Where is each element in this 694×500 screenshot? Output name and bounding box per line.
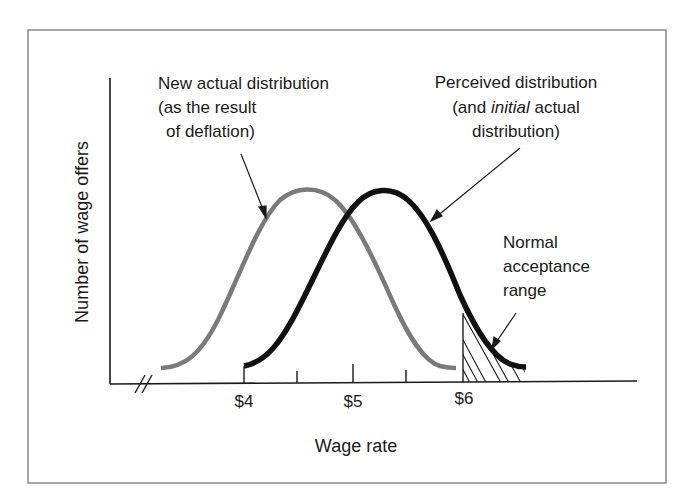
svg-text:New actual distribution: New actual distribution <box>158 74 329 93</box>
perceived-line-2: (and initial actual <box>452 98 580 117</box>
svg-text:(as the result: (as the result <box>158 98 257 117</box>
tick-label-6: $6 <box>455 389 474 408</box>
svg-text:of deflation): of deflation) <box>166 122 255 141</box>
perceived-annotation: Perceived distribution (and initial actu… <box>435 73 598 141</box>
new-actual-distribution-curve <box>161 189 456 368</box>
new-actual-arrow <box>241 154 266 218</box>
svg-text:acceptance: acceptance <box>503 257 590 276</box>
tick-label-4: $4 <box>235 392 254 411</box>
acceptance-annotation: Normal acceptance range <box>503 233 590 300</box>
x-ticks <box>244 313 463 384</box>
acceptance-arrow <box>492 313 516 349</box>
svg-text:Perceived distribution: Perceived distribution <box>435 73 598 92</box>
y-axis-label: Number of wage offers <box>72 141 92 323</box>
tick-label-5: $5 <box>344 392 363 411</box>
svg-text:range: range <box>503 281 546 300</box>
perceived-distribution-curve <box>244 190 526 367</box>
svg-text:Normal: Normal <box>503 233 558 252</box>
x-axis <box>110 381 637 384</box>
x-axis-label: Wage rate <box>315 436 397 456</box>
new-actual-annotation: New actual distribution (as the result o… <box>158 74 329 141</box>
perceived-arrow <box>431 148 520 221</box>
wage-offer-distribution-chart: Number of wage offers $4 $5 $6 Wage rate… <box>0 0 694 500</box>
svg-text:distribution): distribution) <box>472 122 560 141</box>
